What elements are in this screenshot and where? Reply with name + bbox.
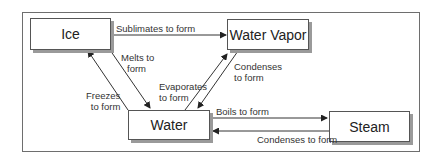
node-water-label: Water [151, 117, 188, 133]
label-freezes: Freezes to form [86, 90, 120, 112]
label-melts-line2: form [121, 63, 154, 74]
label-evaporates: Evaporates to form [159, 81, 207, 103]
node-steam: Steam [329, 111, 410, 142]
label-condenses-vapor-line2: to form [234, 72, 282, 83]
node-ice: Ice [30, 18, 111, 50]
label-sublimates: Sublimates to form [116, 23, 195, 34]
label-boils: Boils to form [216, 106, 269, 117]
node-steam-label: Steam [349, 119, 389, 135]
node-water-vapor-label: Water Vapor [229, 27, 306, 43]
label-condenses-steam: Condenses to form [257, 134, 337, 145]
label-condenses-vapor: Condenses to form [234, 61, 282, 83]
label-evaporates-line1: Evaporates [159, 81, 207, 92]
label-freezes-line2: to form [86, 101, 120, 112]
node-water-vapor: Water Vapor [227, 19, 309, 50]
node-water: Water [128, 110, 210, 140]
label-freezes-line1: Freezes [86, 90, 120, 101]
label-melts: Melts to form [121, 52, 154, 74]
label-condenses-vapor-line1: Condenses [234, 61, 282, 72]
label-evaporates-line2: to form [159, 92, 207, 103]
label-melts-line1: Melts to [121, 52, 154, 63]
node-ice-label: Ice [61, 26, 80, 42]
